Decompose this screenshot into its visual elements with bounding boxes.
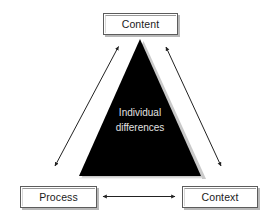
node-context-label: Context	[202, 192, 239, 203]
triangle-shape	[79, 39, 201, 176]
node-context[interactable]: Context	[182, 186, 258, 208]
node-process[interactable]: Process	[20, 186, 97, 208]
diagram-canvas: Individual differences Content Process C…	[0, 0, 275, 223]
node-process-label: Process	[39, 192, 78, 203]
node-content-label: Content	[122, 19, 159, 30]
node-content[interactable]: Content	[103, 13, 178, 35]
